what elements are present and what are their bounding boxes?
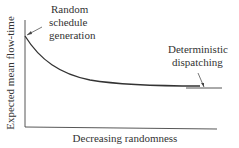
chart: Random schedule generation Deterministic… — [0, 0, 239, 148]
deterministic-label-line2: dispatching — [172, 56, 223, 68]
random-label-line3: generation — [49, 29, 96, 41]
deterministic-label-line1: Deterministic — [168, 43, 228, 55]
random-label-line1: Random — [51, 3, 89, 15]
deterministic-arrowhead-icon — [201, 83, 204, 87]
random-label-line2: schedule — [49, 16, 88, 28]
x-axis-label: Decreasing randomness — [73, 132, 178, 144]
x-axis — [25, 127, 217, 129]
random-arrowhead-icon — [27, 31, 32, 35]
y-axis-label: Expected mean flow-time — [4, 16, 16, 130]
